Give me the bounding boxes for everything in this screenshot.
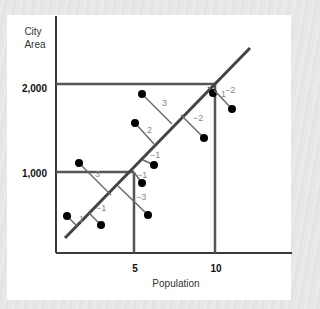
x-tick-10: 10 [210,263,222,274]
data-point [63,212,71,220]
data-point [131,119,139,127]
data-point [144,211,152,219]
y-tick-2000: 2,000 [22,83,47,94]
y-tick-1000: 1,000 [22,168,47,179]
data-point [138,90,146,98]
regression-line [65,48,250,238]
residual-label: −3 [136,192,146,202]
data-point [75,159,83,167]
residual-segment [79,163,111,195]
residual-label: −2 [193,113,203,123]
data-point [97,221,105,229]
residual-label: −1 [137,170,147,180]
data-point [150,161,158,169]
y-axis-title-line1: City [24,26,41,37]
y-axis-title-line2: Area [24,39,46,50]
data-point [228,105,236,113]
residual-plot: 1−13−3−1−123−21−2 City Area 2,000 1,000 … [0,0,303,309]
x-axis-title: Population [152,278,199,289]
data-point [200,134,208,142]
residual-label: 1 [79,214,84,224]
residual-label: 3 [162,98,167,108]
residual-label: −1 [150,150,160,160]
x-tick-5: 5 [132,263,138,274]
residual-label: −2 [225,85,235,95]
data-point [138,179,146,187]
residual-label: −1 [96,203,106,213]
residual-label: 3 [95,169,100,179]
residual-group: 1−13−3−1−123−21−2 [63,85,236,229]
residual-segment [142,94,172,124]
data-point [209,89,217,97]
residual-label: 2 [147,125,152,135]
